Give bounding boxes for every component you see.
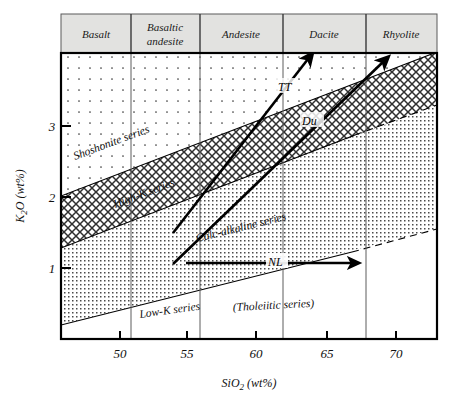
x-axis: 50 55 60 65 70 SiO2 (wt%) <box>114 331 404 392</box>
header-cell-basalt: Basalt <box>82 28 111 40</box>
header-cell-basaltic-andesite-line2: andesite <box>147 35 184 47</box>
x-tick-label-55: 55 <box>181 346 195 361</box>
y-tick-label-2: 2 <box>49 190 56 205</box>
x-tick-label-50: 50 <box>114 346 128 361</box>
header-cell-dacite: Dacite <box>308 28 338 40</box>
y-axis-title: K2O (wt%) <box>13 169 29 224</box>
rock-type-header: Basalt Basaltic andesite Andesite Dacite… <box>61 14 437 53</box>
label-trend-nl: NL <box>267 255 283 269</box>
label-trend-du: Du <box>301 114 317 128</box>
plot-fields: Shoshonite series High-K series Calc-alk… <box>61 52 437 339</box>
x-axis-title: SiO2 (wt%) <box>222 376 277 392</box>
x-tick-label-60: 60 <box>250 346 264 361</box>
x-tick-label-65: 65 <box>321 346 335 361</box>
chart-svg: Basalt Basaltic andesite Andesite Dacite… <box>0 0 451 404</box>
header-cell-basaltic-andesite-line1: Basaltic <box>147 21 183 33</box>
k2o-sio2-classification-diagram: Basalt Basaltic andesite Andesite Dacite… <box>0 0 451 404</box>
y-tick-label-3: 3 <box>48 119 56 134</box>
header-cell-rhyolite: Rhyolite <box>382 28 420 40</box>
y-tick-label-1: 1 <box>49 261 56 276</box>
x-tick-label-70: 70 <box>390 346 404 361</box>
header-cell-andesite: Andesite <box>221 28 260 40</box>
label-trend-tt: TT <box>278 80 293 94</box>
